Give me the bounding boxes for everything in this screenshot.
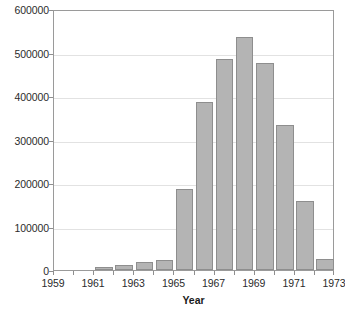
x-axis-tick-label: 1967 [202, 277, 225, 289]
x-axis-tick-mark [153, 271, 154, 275]
x-axis-tick-label: 1963 [122, 277, 145, 289]
x-axis-tick-mark [274, 271, 275, 275]
x-axis-tick-marks [53, 271, 334, 276]
x-axis-tick-mark [73, 271, 74, 275]
x-axis-tick-label: 1965 [162, 277, 185, 289]
x-axis-tick-mark [234, 271, 235, 275]
y-axis-tick-label: 300000 [15, 135, 49, 147]
x-axis-tick-label: 1959 [42, 277, 65, 289]
bar [95, 267, 113, 270]
x-axis-tick-mark [93, 271, 94, 275]
x-axis-tick-label: 1961 [82, 277, 105, 289]
bar [136, 262, 154, 270]
x-axis-tick-label: 1973 [323, 277, 345, 289]
x-axis-tick-mark [113, 271, 114, 275]
bars-layer [54, 11, 333, 270]
x-axis-title: Year [53, 294, 334, 306]
bar [196, 102, 214, 270]
y-axis-tick-label: 500000 [15, 48, 49, 60]
bar [156, 260, 174, 270]
x-axis-tick-mark [133, 271, 134, 275]
y-axis-tick-labels: 0100000200000300000400000500000600000 [0, 0, 49, 314]
x-axis-tick-mark [194, 271, 195, 275]
bar [216, 59, 234, 270]
bar [176, 189, 194, 270]
bar [316, 259, 334, 270]
x-axis-tick-mark [214, 271, 215, 275]
x-axis-tick-label: 1971 [282, 277, 305, 289]
x-axis-tick-label: 1969 [242, 277, 265, 289]
x-axis-tick-labels: 19591961196319651967196919711973 [53, 277, 334, 291]
plot-area [53, 10, 334, 271]
bar [256, 63, 274, 270]
y-axis-tick-label: 600000 [15, 4, 49, 16]
bar [276, 125, 294, 270]
bar [236, 37, 254, 270]
bar [296, 201, 314, 270]
x-axis-tick-mark [294, 271, 295, 275]
bar [115, 265, 133, 270]
x-axis-tick-mark [53, 271, 54, 275]
x-axis-tick-mark [333, 271, 334, 275]
y-axis-tick-label: 400000 [15, 91, 49, 103]
y-axis-tick-label: 100000 [15, 222, 49, 234]
x-axis-tick-mark [314, 271, 315, 275]
x-axis-tick-mark [173, 271, 174, 275]
y-axis-tick-label: 200000 [15, 178, 49, 190]
x-axis-tick-mark [254, 271, 255, 275]
